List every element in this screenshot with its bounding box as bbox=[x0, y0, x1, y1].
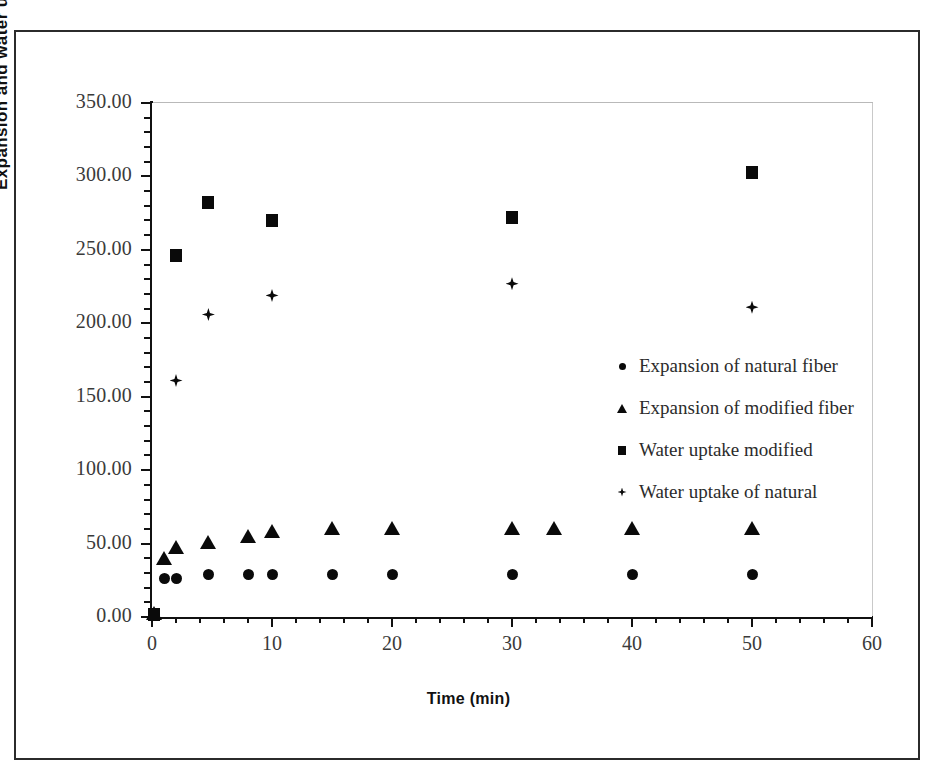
y-tick-minor bbox=[144, 278, 152, 280]
x-tick-minor bbox=[583, 617, 585, 623]
x-tick-minor bbox=[175, 617, 177, 623]
y-tick-major bbox=[141, 543, 152, 545]
x-tick-minor bbox=[367, 617, 369, 623]
diamond-glyph bbox=[618, 488, 627, 497]
y-tick-minor bbox=[144, 513, 152, 515]
data-point-triangle bbox=[168, 540, 184, 554]
y-tick-minor bbox=[144, 499, 152, 501]
y-tick-minor bbox=[144, 352, 152, 354]
y-tick-label: 100.00 bbox=[0, 457, 132, 480]
y-tick-minor bbox=[144, 454, 152, 456]
x-tick-minor bbox=[607, 617, 609, 623]
y-tick-minor bbox=[144, 146, 152, 148]
y-tick-minor bbox=[144, 425, 152, 427]
y-tick-minor bbox=[144, 190, 152, 192]
triangle-glyph bbox=[617, 404, 627, 413]
data-point-circle bbox=[159, 573, 170, 584]
y-tick-major bbox=[141, 249, 152, 251]
y-tick-label: 250.00 bbox=[0, 237, 132, 260]
x-tick-minor bbox=[799, 617, 801, 623]
x-tick-minor bbox=[247, 617, 249, 623]
data-point-square bbox=[202, 196, 214, 209]
x-tick-major bbox=[391, 617, 393, 627]
y-tick-label: 0.00 bbox=[0, 604, 132, 627]
x-tick-minor bbox=[415, 617, 417, 623]
y-tick-minor bbox=[144, 337, 152, 339]
y-tick-minor bbox=[144, 528, 152, 530]
data-point-circle bbox=[267, 569, 278, 580]
data-point-triangle bbox=[624, 521, 640, 535]
x-tick-minor bbox=[655, 617, 657, 623]
x-tick-major bbox=[751, 617, 753, 627]
data-point-circle bbox=[507, 569, 518, 580]
diamond-marker-icon bbox=[612, 488, 632, 497]
data-point-triangle bbox=[744, 521, 760, 535]
x-tick-minor bbox=[319, 617, 321, 623]
x-tick-minor bbox=[703, 617, 705, 623]
legend-item-label: Water uptake modified bbox=[632, 439, 813, 461]
y-tick-minor bbox=[144, 601, 152, 603]
x-tick-label: 40 bbox=[592, 632, 672, 655]
plot-right-border bbox=[872, 103, 873, 617]
y-tick-label: 350.00 bbox=[0, 90, 132, 113]
chart-page: 0.0050.00100.00150.00200.00250.00300.003… bbox=[0, 0, 937, 776]
data-point-square bbox=[148, 608, 160, 621]
data-point-circle bbox=[627, 569, 638, 580]
square-glyph bbox=[618, 446, 626, 455]
x-tick-minor bbox=[847, 617, 849, 623]
chart-legend: Expansion of natural fiberExpansion of m… bbox=[612, 345, 854, 513]
x-tick-major bbox=[631, 617, 633, 627]
y-tick-major bbox=[141, 396, 152, 398]
x-tick-minor bbox=[823, 617, 825, 623]
x-tick-major bbox=[871, 617, 873, 627]
data-point-circle bbox=[327, 569, 338, 580]
y-tick-major bbox=[141, 102, 152, 104]
y-tick-label: 50.00 bbox=[0, 531, 132, 554]
data-point-diamond bbox=[746, 301, 759, 314]
x-tick-minor bbox=[463, 617, 465, 623]
data-point-diamond bbox=[266, 289, 279, 302]
x-tick-minor bbox=[535, 617, 537, 623]
y-axis-title: Expansion and water uptake % bbox=[0, 0, 12, 190]
x-tick-label: 0 bbox=[112, 632, 192, 655]
y-tick-minor bbox=[144, 219, 152, 221]
y-tick-minor bbox=[144, 308, 152, 310]
y-tick-minor bbox=[144, 572, 152, 574]
data-point-diamond bbox=[170, 374, 183, 387]
x-tick-minor bbox=[559, 617, 561, 623]
data-point-triangle bbox=[324, 521, 340, 535]
y-tick-minor bbox=[144, 293, 152, 295]
legend-item: Water uptake of natural bbox=[612, 471, 854, 513]
x-tick-minor bbox=[343, 617, 345, 623]
y-tick-minor bbox=[144, 264, 152, 266]
legend-item: Water uptake modified bbox=[612, 429, 854, 471]
x-tick-label: 30 bbox=[472, 632, 552, 655]
legend-item: Expansion of natural fiber bbox=[612, 345, 854, 387]
x-tick-minor bbox=[439, 617, 441, 623]
y-tick-minor bbox=[144, 484, 152, 486]
y-tick-minor bbox=[144, 205, 152, 207]
x-tick-minor bbox=[295, 617, 297, 623]
data-point-circle bbox=[387, 569, 398, 580]
y-tick-minor bbox=[144, 131, 152, 133]
y-tick-major bbox=[141, 175, 152, 177]
x-tick-minor bbox=[223, 617, 225, 623]
data-point-circle bbox=[243, 569, 254, 580]
data-point-triangle bbox=[546, 521, 562, 535]
triangle-marker-icon bbox=[612, 404, 632, 413]
x-tick-label: 50 bbox=[712, 632, 792, 655]
data-point-square bbox=[506, 211, 518, 224]
x-tick-label: 60 bbox=[832, 632, 912, 655]
y-tick-minor bbox=[144, 587, 152, 589]
x-tick-minor bbox=[487, 617, 489, 623]
data-point-circle bbox=[747, 569, 758, 580]
y-tick-minor bbox=[144, 381, 152, 383]
data-point-triangle bbox=[200, 535, 216, 549]
x-tick-major bbox=[271, 617, 273, 627]
data-point-diamond bbox=[506, 277, 519, 290]
y-tick-major bbox=[141, 322, 152, 324]
circle-glyph bbox=[619, 363, 626, 370]
x-tick-minor bbox=[679, 617, 681, 623]
y-tick-label: 300.00 bbox=[0, 163, 132, 186]
data-point-square bbox=[266, 214, 278, 227]
